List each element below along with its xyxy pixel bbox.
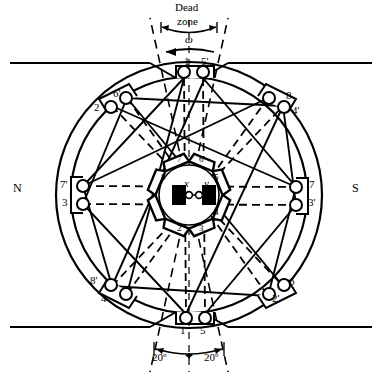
- dead-zone-label-line2: zone: [177, 16, 198, 27]
- motor-diagram-figure: Dead zone ω N S x y 20º 20º 1 5' 2 6' 8 …: [0, 0, 379, 377]
- terminal-label-8: 8: [286, 90, 292, 101]
- pole-label-n: N: [13, 182, 22, 194]
- dead-zone-label-line1: Dead: [175, 2, 198, 13]
- terminal-label-7p: 7': [60, 179, 67, 190]
- terminal-label-6: 6: [289, 276, 295, 287]
- terminal-label-2p: 2': [272, 293, 279, 304]
- pole-label-s: S: [352, 182, 359, 194]
- segment-label-7: 7: [177, 155, 182, 164]
- omega-label: ω: [185, 34, 193, 45]
- rotor-shaft: [186, 192, 193, 199]
- terminal-label-1p: 1': [180, 325, 187, 336]
- terminal-label-5: 5: [200, 325, 206, 336]
- terminal-label-7: 7: [309, 179, 315, 190]
- segment-label-2: 2: [177, 224, 182, 233]
- segment-label-5: 5: [214, 173, 219, 182]
- segment-label-6: 6: [199, 155, 204, 164]
- terminal-label-8p: 8': [90, 275, 97, 286]
- terminal-label-4p: 4': [292, 105, 299, 116]
- segment-label-3: 3: [199, 224, 204, 233]
- terminal-label-1: 1: [184, 56, 190, 67]
- terminal-label-2: 2: [94, 102, 100, 113]
- rotor-axis-x-label: x: [184, 178, 189, 189]
- terminal-label-5p: 5': [201, 56, 208, 67]
- angle-label-right: 20º: [204, 352, 218, 363]
- angle-label-left: 20º: [152, 352, 166, 363]
- segment-label-4: 4: [214, 208, 219, 217]
- terminal-label-4: 4: [101, 293, 107, 304]
- terminal-label-6p: 6': [113, 88, 120, 99]
- terminal-label-3: 3: [62, 197, 68, 208]
- diagram-canvas: [0, 0, 379, 377]
- segment-label-8: 8: [161, 173, 166, 182]
- segment-label-1: 1: [161, 208, 166, 217]
- terminal-label-3p: 3': [308, 197, 315, 208]
- rotor-pin: [196, 192, 203, 199]
- rotor-axis-y-label: y: [204, 178, 209, 189]
